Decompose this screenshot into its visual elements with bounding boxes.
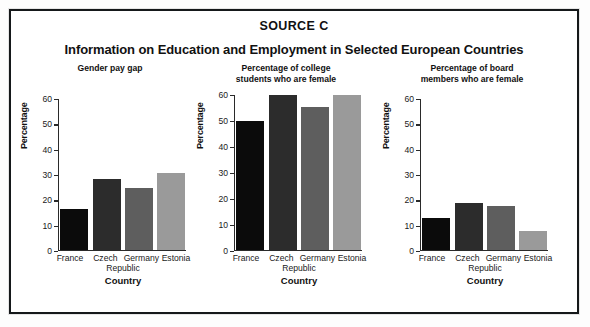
chart-panel-board-members: Percentage of board members who are fema… [379,63,565,311]
x-tick-france: France [415,253,449,263]
y-tick-30 [230,173,234,174]
x-tick-germany: Germany [300,253,334,263]
y-tick-0 [54,251,58,252]
y-tick-20 [230,199,234,200]
x-tick-labels: France Czech Germany Estonia Republic [53,253,193,273]
x-tick-czech-line2: Republic [53,263,193,273]
y-tick-50 [230,121,234,122]
x-tick-labels: France Czech Germany Estonia Republic [415,253,555,273]
x-tick-france: France [229,253,263,263]
y-tick-60 [230,95,234,96]
plot-area: Percentage 0102030405060 Fran [379,63,565,311]
y-tick-60 [54,99,58,100]
y-tick-label-50: 50 [404,120,414,129]
y-tick-label-0: 0 [223,247,228,256]
x-tick-estonia: Estonia [335,253,369,263]
x-axis-line [58,250,186,251]
x-tick-czech-line2: Republic [229,263,369,273]
y-tick-50 [54,124,58,125]
y-tick-label-20: 20 [404,196,414,205]
y-tick-40 [54,150,58,151]
y-tick-label-30: 30 [42,171,52,180]
source-label: SOURCE C [11,19,577,33]
y-tick-10 [416,226,420,227]
y-tick-label-20: 20 [42,196,52,205]
bar-france [422,218,450,249]
bar-germany [301,107,329,250]
y-tick-label-10: 10 [218,221,228,230]
x-tick-czech: Czech [88,253,122,263]
x-axis-line [234,250,362,251]
y-tick-label-30: 30 [218,169,228,178]
y-axis-label: Percentage [19,102,29,149]
y-tick-0 [230,251,234,252]
x-tick-france: France [53,253,87,263]
plot: 0102030405060 [234,95,362,251]
x-axis-line [420,250,548,251]
y-tick-label-50: 50 [218,117,228,126]
y-tick-label-60: 60 [218,91,228,100]
bar-germany [125,188,153,249]
y-tick-40 [230,147,234,148]
y-tick-label-60: 60 [42,95,52,104]
bars-group [235,95,362,250]
y-tick-0 [416,251,420,252]
y-tick-40 [416,150,420,151]
page-title: Information on Education and Employment … [11,42,577,57]
x-tick-labels: France Czech Germany Estonia Republic [229,253,369,273]
x-tick-czech: Czech [264,253,298,263]
chart-panel-gender-pay-gap: Gender pay gap Percentage 01 [17,63,203,311]
y-tick-label-10: 10 [42,221,52,230]
y-tick-label-40: 40 [42,145,52,154]
x-axis-label: Country [229,275,369,286]
bars-group [59,99,186,250]
x-tick-czech: Czech [450,253,484,263]
bar-czech-republic [455,203,483,249]
y-tick-50 [416,124,420,125]
x-axis-label: Country [53,275,193,286]
y-tick-label-50: 50 [42,120,52,129]
chart-panel-college-students: Percentage of college students who are f… [193,63,379,311]
bar-france [60,209,88,249]
bar-czech-republic [93,179,121,249]
y-axis-label: Percentage [195,102,205,149]
plot: 0102030405060 [58,99,186,251]
bar-estonia [519,231,547,250]
y-tick-label-40: 40 [218,143,228,152]
bar-germany [487,206,515,250]
bars-group [421,99,548,250]
bar-estonia [157,173,185,250]
plot: 0102030405060 [420,99,548,251]
worksheet-page: SOURCE C Information on Education and Em… [0,0,590,327]
x-axis-label: Country [415,275,555,286]
plot-area: Percentage 0102030405060 Fran [17,63,203,311]
y-tick-10 [54,226,58,227]
x-tick-estonia: Estonia [159,253,193,263]
bar-estonia [333,95,361,250]
charts-container: Gender pay gap Percentage 01 [11,63,577,311]
x-tick-estonia: Estonia [521,253,555,263]
y-tick-20 [416,200,420,201]
y-tick-label-30: 30 [404,171,414,180]
x-tick-germany: Germany [124,253,158,263]
y-tick-20 [54,200,58,201]
y-tick-label-20: 20 [218,195,228,204]
y-tick-label-10: 10 [404,221,414,230]
source-frame: SOURCE C Information on Education and Em… [9,9,579,314]
y-tick-60 [416,99,420,100]
y-tick-10 [230,225,234,226]
x-tick-czech-line2: Republic [415,263,555,273]
y-tick-label-0: 0 [409,247,414,256]
y-tick-label-0: 0 [47,247,52,256]
bar-france [236,121,264,250]
y-tick-30 [416,175,420,176]
y-axis-label: Percentage [381,102,391,149]
bar-czech-republic [269,95,297,250]
plot-area: Percentage 0102030405060 Fran [193,63,379,311]
y-tick-label-40: 40 [404,145,414,154]
y-tick-label-60: 60 [404,95,414,104]
y-tick-30 [54,175,58,176]
x-tick-germany: Germany [486,253,520,263]
